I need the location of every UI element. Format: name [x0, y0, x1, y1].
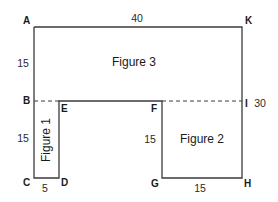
dimension-left-upper: 15 — [17, 57, 29, 69]
figure-2-label: Figure 2 — [180, 132, 224, 146]
point-label-K: K — [245, 15, 253, 26]
point-label-H: H — [244, 178, 251, 189]
dimension-right: 30 — [254, 97, 266, 109]
point-label-C: C — [23, 177, 30, 188]
dimension-bottom-CD: 5 — [42, 182, 48, 194]
dimension-inner-FG: 15 — [144, 133, 156, 145]
figure-3-label: Figure 3 — [112, 55, 156, 69]
point-label-B: B — [23, 95, 30, 106]
dimension-bottom-GH: 15 — [194, 182, 206, 194]
composite-figure-diagram: A K B E F I C D G H 40 15 15 5 15 15 30 … — [0, 0, 278, 202]
point-label-G: G — [151, 178, 159, 189]
dimension-left-lower: 15 — [17, 132, 29, 144]
point-label-E: E — [61, 103, 68, 114]
dimension-top: 40 — [131, 12, 143, 24]
figure-1-label: Figure 1 — [39, 118, 53, 162]
point-label-A: A — [23, 15, 30, 26]
point-label-I: I — [245, 98, 248, 109]
point-label-D: D — [61, 177, 68, 188]
point-label-F: F — [151, 103, 157, 114]
